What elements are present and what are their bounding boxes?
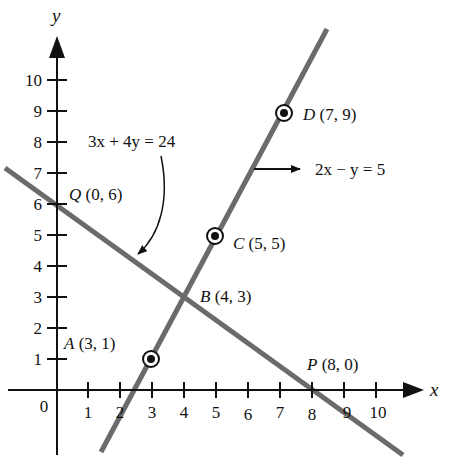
svg-text:5: 5 bbox=[212, 403, 221, 422]
origin-label: 0 bbox=[40, 397, 49, 416]
label-C: C (5, 5) bbox=[233, 234, 285, 253]
label-P: P (8, 0) bbox=[306, 355, 358, 374]
svg-text:9: 9 bbox=[343, 403, 352, 422]
svg-text:3: 3 bbox=[148, 403, 157, 422]
svg-text:1: 1 bbox=[84, 403, 93, 422]
svg-text:7: 7 bbox=[34, 164, 43, 183]
svg-text:9: 9 bbox=[34, 102, 43, 121]
svg-text:8: 8 bbox=[308, 405, 317, 424]
svg-text:2: 2 bbox=[116, 403, 125, 422]
svg-text:6: 6 bbox=[244, 405, 253, 424]
x-axis-arrow-icon bbox=[403, 382, 424, 398]
svg-text:6: 6 bbox=[34, 195, 43, 214]
svg-text:1: 1 bbox=[34, 350, 43, 369]
equation-label-3x-4y: 3x + 4y = 24 bbox=[88, 132, 176, 151]
point-C bbox=[207, 228, 223, 244]
y-axis-label: y bbox=[50, 5, 61, 26]
y-axis-arrow-icon bbox=[49, 36, 65, 58]
x-axis-label: x bbox=[429, 379, 439, 400]
svg-text:2: 2 bbox=[34, 319, 43, 338]
y-axis bbox=[49, 36, 65, 455]
svg-text:10: 10 bbox=[25, 71, 42, 90]
label-A: A (3, 1) bbox=[63, 334, 115, 353]
svg-text:10: 10 bbox=[370, 403, 387, 422]
svg-text:4: 4 bbox=[180, 403, 189, 422]
svg-text:8: 8 bbox=[34, 133, 43, 152]
equation-label-2x-y: 2x − y = 5 bbox=[315, 160, 385, 179]
curved-arrow-icon bbox=[138, 156, 164, 254]
svg-text:7: 7 bbox=[276, 403, 285, 422]
label-D: D (7, 9) bbox=[302, 105, 356, 124]
svg-text:5: 5 bbox=[34, 226, 43, 245]
svg-text:3: 3 bbox=[34, 288, 43, 307]
svg-text:4: 4 bbox=[34, 257, 43, 276]
chart-canvas: 1 2 3 4 5 6 7 8 9 10 0 1 2 3 4 5 6 7 8 9… bbox=[0, 0, 450, 471]
y-tick-labels: 1 2 3 4 5 6 7 8 9 10 bbox=[25, 71, 43, 369]
point-A bbox=[143, 351, 159, 367]
point-D bbox=[276, 105, 292, 121]
x-tick-labels: 1 2 3 4 5 6 7 8 9 10 0 bbox=[40, 397, 387, 424]
label-B: B (4, 3) bbox=[200, 287, 251, 306]
label-Q: Q (0, 6) bbox=[69, 185, 122, 204]
